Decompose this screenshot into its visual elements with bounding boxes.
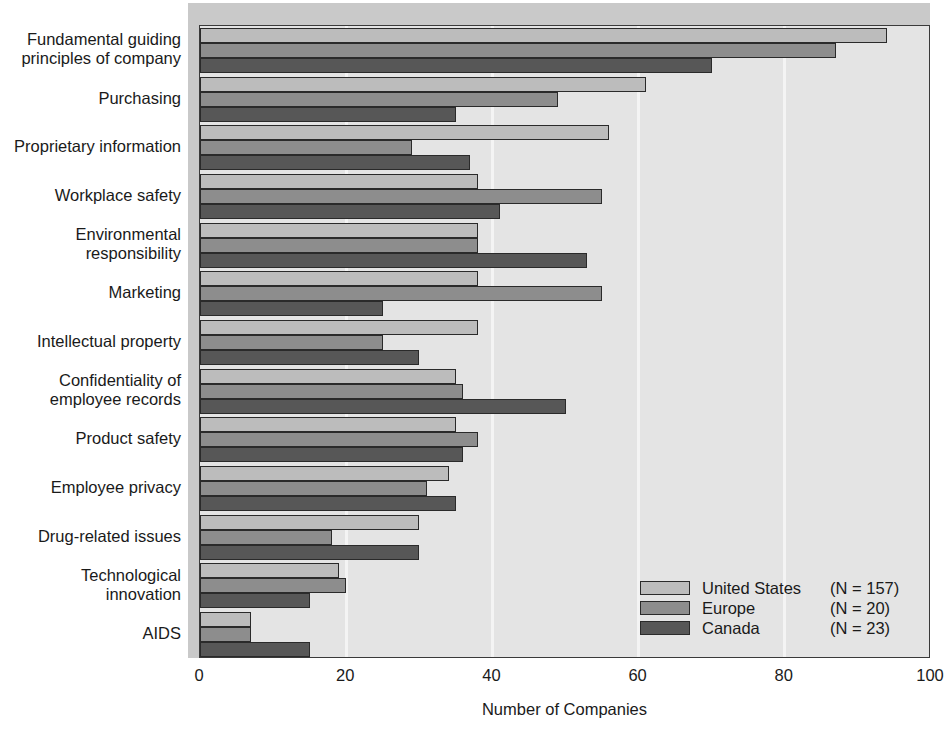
bar-group xyxy=(200,172,929,221)
category-label: Proprietary information xyxy=(14,137,181,156)
bar xyxy=(200,369,456,384)
bar xyxy=(200,466,449,481)
legend-label: Canada xyxy=(702,619,830,638)
bar xyxy=(200,189,602,204)
bar-group xyxy=(200,26,929,75)
bar xyxy=(200,92,558,107)
bar-group xyxy=(200,221,929,270)
legend-item[interactable]: United States(N = 157) xyxy=(640,578,916,598)
x-tick-20: 20 xyxy=(336,666,354,685)
bar xyxy=(200,28,887,43)
bar xyxy=(200,627,251,642)
x-tick-40: 40 xyxy=(482,666,500,685)
category-label: AIDS xyxy=(142,624,181,643)
bar xyxy=(200,350,419,365)
bar xyxy=(200,286,602,301)
bar-group xyxy=(200,269,929,318)
category-label: Drug-related issues xyxy=(38,527,181,546)
bar xyxy=(200,515,419,530)
bar xyxy=(200,140,412,155)
legend-item[interactable]: Europe(N = 20) xyxy=(640,598,916,618)
category-label: Marketing xyxy=(109,283,181,302)
bar xyxy=(200,545,419,560)
legend-swatch-icon xyxy=(640,621,690,635)
bar xyxy=(200,642,310,657)
bar xyxy=(200,563,339,578)
bar-group xyxy=(200,416,929,465)
legend-swatch-icon xyxy=(640,581,690,595)
plot-area xyxy=(199,25,930,658)
bar xyxy=(200,253,587,268)
bar-group xyxy=(200,367,929,416)
bar-group xyxy=(200,513,929,562)
category-label: Employee privacy xyxy=(51,478,181,497)
bar xyxy=(200,530,332,545)
bar-group xyxy=(200,318,929,367)
bar xyxy=(200,432,478,447)
bar xyxy=(200,125,609,140)
bar xyxy=(200,43,836,58)
bar-group xyxy=(200,123,929,172)
legend-swatch-icon xyxy=(640,601,690,615)
bar xyxy=(200,447,463,462)
x-axis-tick-labels: 020406080100 xyxy=(0,666,937,690)
category-label: Intellectual property xyxy=(37,332,181,351)
bar-rows xyxy=(200,26,929,657)
bar xyxy=(200,481,427,496)
x-tick-80: 80 xyxy=(775,666,793,685)
legend-label: United States xyxy=(702,579,830,598)
bar-group xyxy=(200,75,929,124)
bar xyxy=(200,301,383,316)
bar xyxy=(200,612,251,627)
bar xyxy=(200,58,712,73)
bar-group xyxy=(200,464,929,513)
category-label: Fundamental guiding principles of compan… xyxy=(21,30,181,68)
category-label: Environmental responsibility xyxy=(76,225,181,263)
x-tick-100: 100 xyxy=(916,666,944,685)
bar xyxy=(200,335,383,350)
bar xyxy=(200,107,456,122)
bar xyxy=(200,399,566,414)
bar xyxy=(200,271,478,286)
legend: United States(N = 157)Europe(N = 20)Cana… xyxy=(640,578,916,638)
category-label: Confidentiality of employee records xyxy=(50,371,181,409)
legend-label: Europe xyxy=(702,599,830,618)
bar xyxy=(200,320,478,335)
legend-sample-size: (N = 23) xyxy=(830,619,890,638)
category-label: Product safety xyxy=(76,429,181,448)
bar xyxy=(200,496,456,511)
category-axis-labels: Fundamental guiding principles of compan… xyxy=(0,25,190,658)
bar xyxy=(200,223,478,238)
bar xyxy=(200,593,310,608)
x-axis-title: Number of Companies xyxy=(199,700,930,719)
category-label: Purchasing xyxy=(98,89,181,108)
category-label: Technological innovation xyxy=(81,566,181,604)
legend-sample-size: (N = 20) xyxy=(830,599,890,618)
bar xyxy=(200,578,346,593)
bar xyxy=(200,384,463,399)
category-label: Workplace safety xyxy=(55,186,181,205)
x-tick-60: 60 xyxy=(628,666,646,685)
gridline-100 xyxy=(930,26,931,657)
bar xyxy=(200,155,470,170)
legend-item[interactable]: Canada(N = 23) xyxy=(640,618,916,638)
bar xyxy=(200,174,478,189)
bar xyxy=(200,204,500,219)
bar xyxy=(200,238,478,253)
bar xyxy=(200,417,456,432)
bar xyxy=(200,77,646,92)
x-tick-0: 0 xyxy=(194,666,203,685)
legend-sample-size: (N = 157) xyxy=(830,579,899,598)
